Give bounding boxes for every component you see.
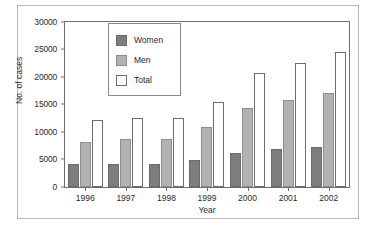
bar-men-2002[interactable] (323, 93, 334, 187)
bar-men-1998[interactable] (161, 139, 172, 187)
figure-container: No. of cases 050001000015000200002500030… (0, 0, 369, 229)
bar-men-2000[interactable] (242, 108, 253, 187)
bar-total-2002[interactable] (335, 52, 346, 187)
x-axis-tick-mark (248, 187, 249, 191)
y-axis-label: No. of cases (14, 57, 24, 104)
bar-men-1999[interactable] (201, 127, 212, 187)
bar-total-2001[interactable] (295, 63, 306, 187)
x-axis-tick-label: 2002 (319, 193, 338, 203)
legend-label-women: Women (134, 35, 163, 45)
y-axis-tick-label: 25000 (34, 44, 57, 54)
bar-women-2002[interactable] (311, 147, 322, 187)
x-axis-tick-label: 2001 (279, 193, 298, 203)
bar-men-2001[interactable] (283, 100, 294, 187)
legend-item-women[interactable]: Women (116, 30, 180, 50)
bar-total-1997[interactable] (132, 118, 143, 187)
y-axis-tick-label: 5000 (39, 154, 57, 164)
x-axis-tick-mark (207, 187, 208, 191)
bar-women-1998[interactable] (149, 164, 160, 187)
y-axis-tick-label: 20000 (34, 71, 57, 81)
bar-total-1996[interactable] (92, 120, 103, 187)
legend-swatch-total-icon (116, 75, 127, 86)
legend-item-total[interactable]: Total (116, 70, 180, 90)
y-axis-tick-label: 10000 (34, 126, 57, 136)
x-axis-tick-label: 1999 (198, 193, 217, 203)
bar-women-1996[interactable] (68, 164, 79, 187)
x-axis-tick-label: 2000 (238, 193, 257, 203)
bar-women-1997[interactable] (108, 164, 119, 187)
x-axis-tick-mark (85, 187, 86, 191)
bar-total-1998[interactable] (173, 118, 184, 187)
bar-total-1999[interactable] (213, 102, 224, 187)
legend-label-men: Men (134, 55, 151, 65)
bar-women-2001[interactable] (271, 149, 282, 187)
x-axis-tick-label: 1996 (76, 193, 95, 203)
x-axis-tick-mark (166, 187, 167, 191)
x-axis-tick-label: 1997 (116, 193, 135, 203)
x-axis-tick-label: 1998 (157, 193, 176, 203)
legend-swatch-women-icon (116, 35, 127, 46)
bar-group-1996: 1996 (65, 22, 106, 187)
x-axis-label: Year (65, 205, 349, 215)
bar-total-2000[interactable] (254, 73, 265, 187)
bar-group-1999: 1999 (187, 22, 228, 187)
bar-group-2001: 2001 (268, 22, 309, 187)
chart-legend: Women Men Total (108, 23, 181, 96)
y-axis-tick-label: 0 (52, 181, 57, 191)
x-axis-tick-mark (126, 187, 127, 191)
x-axis-tick-mark (329, 187, 330, 191)
bar-group-2000: 2000 (227, 22, 268, 187)
bar-women-2000[interactable] (230, 153, 241, 187)
bar-men-1997[interactable] (120, 139, 131, 187)
x-axis-tick-mark (288, 187, 289, 191)
bar-group-2002: 2002 (308, 22, 349, 187)
y-axis-tick-label: 30000 (34, 16, 57, 26)
y-axis-tick-label: 15000 (34, 99, 57, 109)
legend-swatch-men-icon (116, 55, 127, 66)
legend-label-total: Total (134, 75, 152, 85)
bar-men-1996[interactable] (80, 142, 91, 187)
legend-item-men[interactable]: Men (116, 50, 180, 70)
bar-women-1999[interactable] (189, 160, 200, 187)
